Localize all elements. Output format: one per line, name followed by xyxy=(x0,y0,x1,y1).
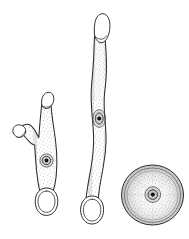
nucleus-dot xyxy=(151,193,155,197)
straight-holdfast xyxy=(81,196,104,224)
figure-root xyxy=(0,0,189,239)
apical-cap-branch-icon xyxy=(13,125,26,138)
straight-nucleus xyxy=(92,109,106,128)
branched-nucleus xyxy=(39,153,53,167)
scientific-illustration xyxy=(0,0,189,239)
branched-holdfast xyxy=(35,188,58,215)
nucleus-dot xyxy=(45,159,49,163)
disc-nucleus xyxy=(144,186,161,203)
nucleus-dot xyxy=(97,117,101,121)
